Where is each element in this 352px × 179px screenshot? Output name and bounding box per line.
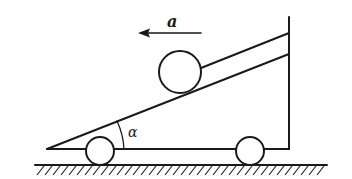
acceleration-label: a — [167, 12, 177, 31]
wheel-left — [86, 137, 114, 165]
diagram-canvas: a α — [0, 0, 352, 179]
wheel-right — [236, 137, 264, 165]
angle-label: α — [128, 124, 137, 140]
ball — [159, 51, 201, 93]
string — [201, 33, 289, 68]
ground-hatching — [37, 166, 324, 175]
angle-arc — [117, 121, 124, 149]
